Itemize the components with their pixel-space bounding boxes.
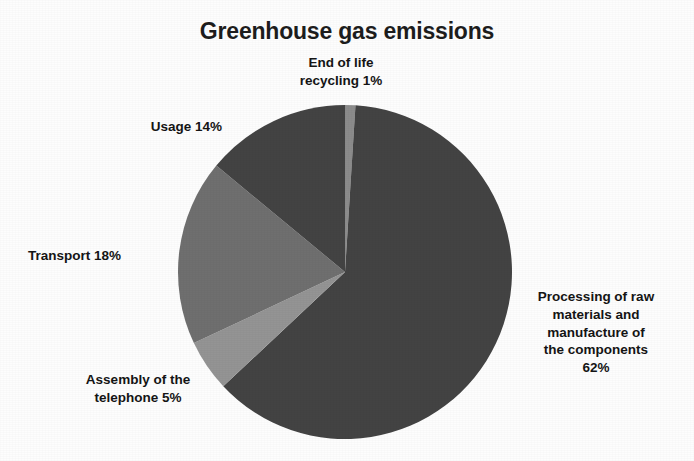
pie-slice-group	[178, 105, 512, 439]
slice-label-assembly-of-the-telephone: Assembly of the telephone 5%	[52, 371, 224, 407]
slice-label-end-of-life-recycling: End of life recycling 1%	[262, 54, 420, 90]
slice-label-transport: Transport 18%	[28, 247, 180, 265]
slice-label-usage: Usage 14%	[92, 118, 222, 136]
slice-label-processing-of-raw-materials: Processing of raw materials and manufact…	[512, 288, 680, 377]
pie-chart-figure: Greenhouse gas emissions End of life rec…	[0, 0, 694, 461]
